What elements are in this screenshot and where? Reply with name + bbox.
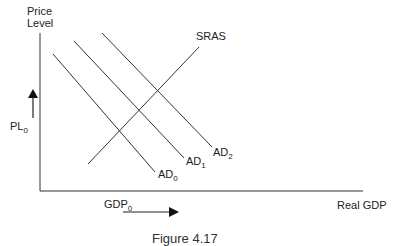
ad0-label: AD0 xyxy=(158,168,178,180)
price-level-label: PL0 xyxy=(10,120,28,132)
sras-curve xyxy=(88,47,199,164)
ad1-label: AD1 xyxy=(186,155,206,167)
y-axis-label: Price Level xyxy=(27,5,53,29)
price-level-up-arrow-icon xyxy=(28,89,38,118)
ad2-label: AD2 xyxy=(213,146,233,158)
y-axis-label-line1: Price xyxy=(27,5,53,17)
y-axis-label-line2: Level xyxy=(27,17,53,29)
sras-label: SRAS xyxy=(196,30,226,42)
ad1-curve xyxy=(74,41,184,158)
gdp-label: GDP0 xyxy=(104,198,132,210)
x-axis-label: Real GDP xyxy=(337,199,387,211)
figure-caption: Figure 4.17 xyxy=(152,231,218,246)
